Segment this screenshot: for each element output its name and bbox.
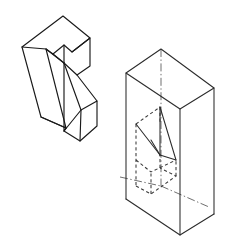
technical-drawing-figure: Isometric wedge bracket with enclosing c… xyxy=(0,0,227,244)
isometric-drawing-canvas xyxy=(0,0,227,244)
box-right-face-fill xyxy=(180,88,214,235)
